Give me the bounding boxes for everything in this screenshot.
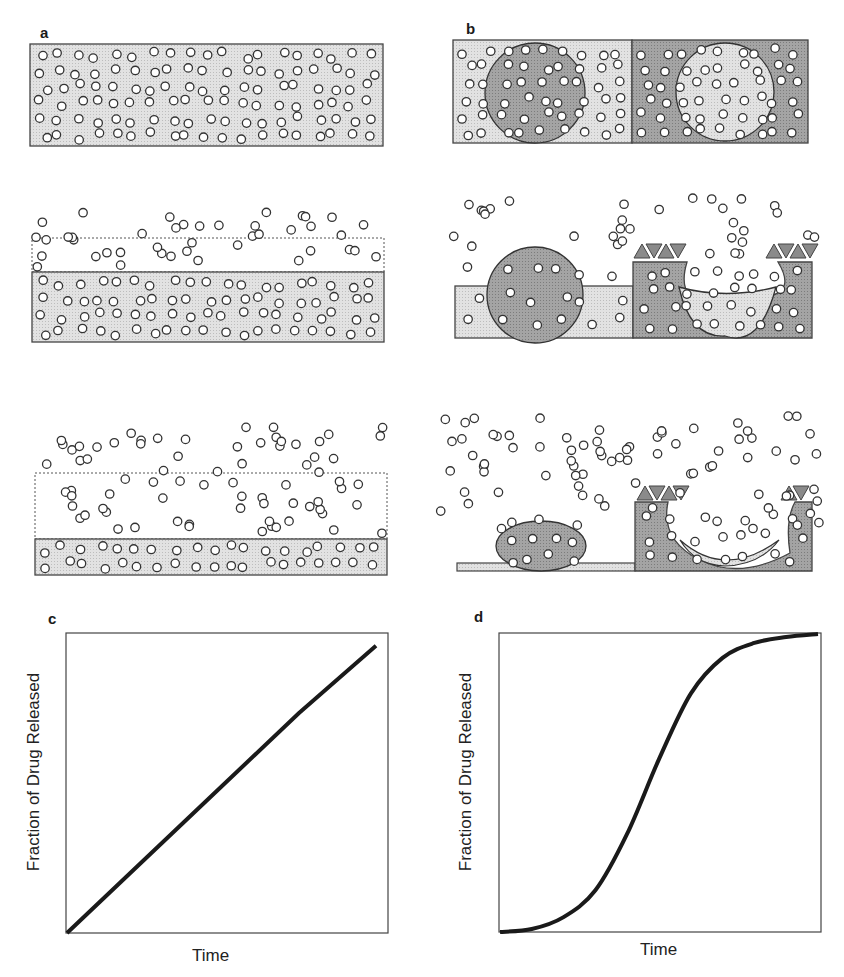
drug-particle [557, 315, 565, 323]
drug-particle [153, 243, 161, 251]
drug-particle [75, 442, 83, 450]
drug-particle [735, 272, 743, 280]
drug-particle [371, 314, 379, 322]
drug-particle [352, 316, 360, 324]
drug-particle [95, 129, 103, 137]
drug-particle [44, 86, 52, 94]
drug-particle [479, 80, 487, 88]
drug-particle [348, 130, 356, 138]
drug-particle [326, 327, 334, 335]
drug-particle [171, 559, 179, 567]
drug-particle [515, 129, 523, 137]
drug-particle [577, 51, 585, 59]
drug-particle [719, 204, 727, 212]
drug-particle [637, 128, 645, 136]
drug-particle [113, 545, 121, 553]
drug-particle [242, 423, 250, 431]
drug-particle [77, 280, 85, 288]
drug-particle [558, 47, 566, 55]
drug-particle [618, 216, 626, 224]
drug-particle [56, 541, 64, 549]
drug-particle [258, 120, 266, 128]
drug-particle [297, 299, 305, 307]
drug-particle [146, 128, 154, 136]
drug-particle [259, 131, 267, 139]
drug-particle [331, 558, 339, 566]
drug-particle [83, 455, 91, 463]
drug-particle [195, 222, 203, 230]
drug-particle [535, 126, 543, 134]
drug-particle [489, 430, 497, 438]
drug-particle [149, 478, 157, 486]
drug-particle [159, 466, 167, 474]
drug-particle [719, 110, 727, 118]
drug-particle [499, 315, 507, 323]
drug-particle [614, 60, 622, 68]
drug-particle [665, 283, 673, 291]
drug-particle [601, 502, 609, 510]
drug-particle [39, 51, 47, 59]
drug-particle [509, 559, 517, 567]
drug-particle [368, 561, 376, 569]
drug-particle [64, 233, 72, 241]
drug-particle [290, 326, 298, 334]
drug-particle [166, 49, 174, 57]
drug-particle [57, 436, 65, 444]
drug-particle [186, 83, 194, 91]
drug-particle [43, 460, 51, 468]
drug-particle [186, 278, 194, 286]
drug-particle [93, 443, 101, 451]
drug-particle [646, 551, 654, 559]
drug-particle [332, 86, 340, 94]
drug-particle [281, 48, 289, 56]
drug-particle [145, 98, 153, 106]
drug-particle [182, 326, 190, 334]
drug-particle [275, 101, 283, 109]
drug-particle [653, 450, 661, 458]
drug-particle [740, 96, 748, 104]
drug-particle [173, 546, 181, 554]
drug-particle [202, 278, 210, 286]
drug-particle [533, 321, 541, 329]
drug-particle [35, 114, 43, 122]
drug-particle [314, 85, 322, 93]
drug-particle [217, 47, 225, 55]
drug-particle [756, 76, 764, 84]
drug-particle [162, 65, 170, 73]
drug-particle [58, 102, 66, 110]
drug-particle [325, 430, 333, 438]
drug-particle [666, 515, 674, 523]
drug-particle [573, 521, 581, 529]
chart-d-xlabel: Time [640, 940, 677, 960]
drug-particle [789, 98, 797, 106]
drug-particle [41, 549, 49, 557]
drug-particle [80, 297, 88, 305]
drug-particle [54, 282, 62, 290]
drug-particle [239, 543, 247, 551]
drug-particle [91, 70, 99, 78]
drug-particle [200, 481, 208, 489]
drug-particle [327, 282, 335, 290]
drug-particle [75, 51, 83, 59]
drug-particle [317, 315, 325, 323]
drug-particle [60, 84, 68, 92]
drug-particle [147, 312, 155, 320]
drug-particle [277, 118, 285, 126]
drug-particle [655, 205, 663, 213]
drug-particle [594, 83, 602, 91]
drug-particle [204, 309, 212, 317]
drug-particle [57, 316, 65, 324]
drug-particle [292, 103, 300, 111]
drug-particle [363, 79, 371, 87]
drug-particle [786, 64, 794, 72]
drug-particle [545, 108, 553, 116]
drug-particle [109, 297, 117, 305]
drug-particle [253, 50, 261, 58]
drug-particle [793, 266, 801, 274]
drug-particle [487, 47, 495, 55]
drug-particle [713, 267, 721, 275]
drug-particle [567, 457, 575, 465]
drug-particle [239, 99, 247, 107]
drug-particle [772, 447, 780, 455]
drug-particle [151, 68, 159, 76]
